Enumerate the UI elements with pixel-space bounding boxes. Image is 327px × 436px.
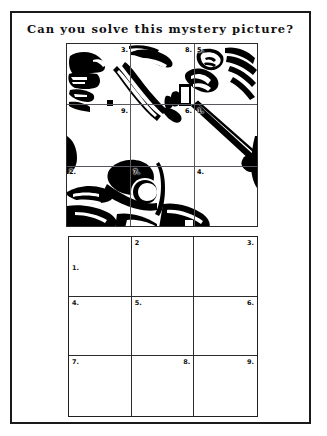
answer-cell-label: 3. (247, 240, 254, 247)
answer-cell-label: 1. (72, 265, 79, 272)
answer-cell-label: 2 (135, 240, 140, 247)
picture-cell: 9. (67, 105, 131, 166)
answer-cell-label: 7. (72, 359, 79, 366)
picture-cell: 2. (67, 167, 131, 227)
answer-cell-label: 5. (135, 300, 142, 307)
answer-cell-9[interactable]: 9. (194, 356, 257, 416)
answer-grid: 1. 2 3. 4. 5. 6. 7. 8. 9. (68, 236, 258, 417)
page-title: Can you solve this mystery picture? (14, 22, 307, 36)
picture-cell-label: 1. (197, 108, 204, 115)
answer-cell-4[interactable]: 4. (69, 297, 132, 357)
answer-cell-5[interactable]: 5. (132, 297, 195, 357)
answer-cell-label: 6. (247, 300, 254, 307)
picture-cell: 4. (195, 167, 258, 227)
picture-cell: 8. (131, 44, 195, 105)
worksheet-page: Can you solve this mystery picture? (0, 0, 327, 436)
answer-cell-2[interactable]: 2 (132, 237, 195, 297)
answer-cell-6[interactable]: 6. (194, 297, 257, 357)
mystery-picture-cell-overlay: 3. 8. 5. 9. 6. 1. 2. 7. (67, 44, 258, 227)
mystery-picture: 3. 8. 5. 9. 6. 1. 2. 7. (66, 43, 258, 227)
answer-cell-8[interactable]: 8. (132, 356, 195, 416)
answer-cell-label: 9. (247, 359, 254, 366)
picture-cell-label: 9. (121, 108, 128, 115)
picture-cell: 1. (195, 105, 258, 166)
picture-cell-label: 8. (185, 47, 192, 54)
answer-cell-1[interactable]: 1. (69, 237, 132, 297)
picture-cell-label: 5. (197, 47, 204, 54)
picture-cell: 7. (131, 167, 195, 227)
picture-cell: 3. (67, 44, 131, 105)
picture-cell-label: 2. (69, 169, 76, 176)
picture-cell-label: 6. (185, 108, 192, 115)
picture-cell: 6. (131, 105, 195, 166)
answer-cell-7[interactable]: 7. (69, 356, 132, 416)
picture-cell-label: 7. (133, 169, 140, 176)
picture-cell-label: 4. (197, 169, 204, 176)
answer-cell-3[interactable]: 3. (194, 237, 257, 297)
answer-cell-label: 8. (183, 359, 190, 366)
picture-cell-label: 3. (121, 47, 128, 54)
answer-cell-label: 4. (72, 300, 79, 307)
picture-cell: 5. (195, 44, 258, 105)
